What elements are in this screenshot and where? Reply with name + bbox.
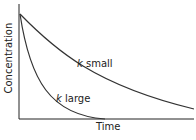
x-axis-label: Time [96,121,120,132]
chart-canvas [0,0,196,140]
k-large-text: large [62,93,91,104]
k-small-text: small [83,58,113,69]
label-k-large: k large [56,93,90,104]
y-axis-label: Concentration [3,34,14,94]
label-k-small: k small [77,58,113,69]
